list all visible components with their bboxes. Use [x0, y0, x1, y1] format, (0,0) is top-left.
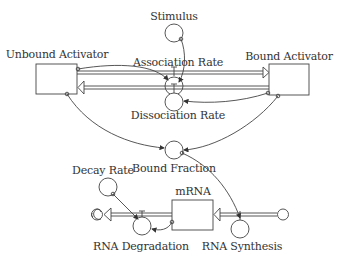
mrna-stock[interactable]	[172, 200, 213, 230]
stimulus-circle[interactable]	[165, 24, 183, 42]
connector-mrna-to-degradation	[152, 222, 172, 230]
rna-synthesis-valve[interactable]	[231, 220, 249, 238]
rna-degradation-valve[interactable]	[133, 217, 151, 235]
rna-degradation-label: RNA Degradation	[93, 241, 189, 253]
bound-fraction-circle[interactable]	[165, 141, 183, 159]
stock-flow-diagram	[0, 0, 338, 263]
mrna-label: mRNA	[175, 186, 210, 198]
connector-decay-to-degradation	[113, 194, 138, 219]
cloud-right-icon	[278, 209, 289, 220]
rna-synthesis-label: RNA Synthesis	[202, 241, 282, 253]
connector-bound-to-dissociation	[184, 93, 268, 102]
connector-bound-to-bound-fraction	[184, 96, 278, 150]
dissociation-flow-pipe[interactable]	[78, 81, 269, 94]
cloud-left-icon	[92, 209, 103, 220]
bound-activator-label: Bound Activator	[245, 51, 333, 63]
unbound-activator-stock[interactable]	[36, 64, 77, 94]
bound-fraction-label: Bound Fraction	[132, 163, 216, 175]
stimulus-label: Stimulus	[150, 11, 198, 23]
bound-activator-stock[interactable]	[269, 64, 309, 95]
dissociation-rate-label: Dissociation Rate	[131, 110, 225, 122]
unbound-activator-label: Unbound Activator	[6, 49, 108, 61]
association-rate-label: Association Rate	[133, 57, 223, 69]
decay-rate-label: Decay Rate	[72, 165, 134, 177]
synthesis-flow-pipe[interactable]	[214, 208, 277, 221]
